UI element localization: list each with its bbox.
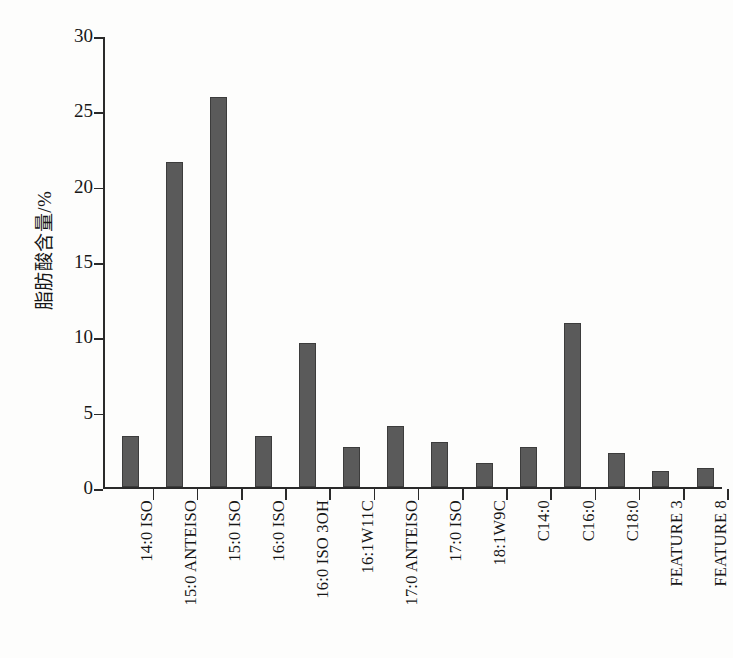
x-axis-tick-label: 17:0 ISO: [446, 500, 466, 562]
bar: [520, 447, 537, 488]
bar: [255, 436, 272, 487]
x-axis-tick-label: 16:1W11C: [358, 500, 378, 573]
bar: [431, 442, 448, 487]
bar: [210, 97, 227, 487]
y-axis-tick-label: 15: [57, 251, 93, 273]
x-axis-tick: [374, 489, 376, 500]
y-axis-tick: [94, 338, 103, 340]
x-axis-tick-label: C14:0: [534, 500, 554, 541]
x-axis-tick: [418, 489, 420, 500]
bar: [299, 343, 316, 488]
y-axis-tick-label: 0: [57, 477, 93, 499]
x-axis-tick-label: 16:0 ISO: [269, 500, 289, 562]
y-axis-tick-label: 30: [57, 25, 93, 47]
bar: [652, 471, 669, 488]
x-axis-tick: [639, 489, 641, 500]
y-axis-tick-label: 25: [57, 100, 93, 122]
x-axis-tick: [241, 489, 243, 500]
y-axis-tick: [94, 188, 103, 190]
bar: [697, 468, 714, 488]
plot-area: 051015202530: [103, 37, 722, 489]
x-axis-tick: [550, 489, 552, 500]
y-axis-tick: [94, 489, 103, 491]
x-axis-tick-label: C16:0: [579, 500, 599, 541]
x-axis-tick: [462, 489, 464, 500]
bar: [166, 162, 183, 487]
y-axis-tick-label: 20: [57, 176, 93, 198]
x-axis-tick: [329, 489, 331, 500]
x-axis-tick-label: 15:0 ISO: [225, 500, 245, 562]
y-axis-tick: [94, 414, 103, 416]
x-axis-tick-label: 17:0 ANTEISO: [402, 500, 422, 606]
bar: [608, 453, 625, 488]
bar: [343, 447, 360, 488]
x-axis-tick-label: FEATURE 3: [667, 500, 687, 587]
y-axis-tick: [94, 37, 103, 39]
y-axis-label-container: 脂肪酸含量/%: [26, 0, 60, 500]
x-axis-tick-label: C18:0: [623, 500, 643, 541]
x-axis-tick: [153, 489, 155, 500]
y-axis-tick: [94, 263, 103, 265]
fatty-acid-bar-chart: 脂肪酸含量/% 051015202530 14:0 ISO15:0 ANTEIS…: [0, 0, 733, 658]
x-axis-tick: [727, 489, 729, 500]
y-axis-tick-label: 5: [57, 402, 93, 424]
bar: [387, 426, 404, 488]
x-axis-tick-label: 14:0 ISO: [137, 500, 157, 562]
bar: [564, 323, 581, 487]
x-axis-tick: [595, 489, 597, 500]
x-axis-tick-label: 16:0 ISO 3OH: [313, 500, 333, 599]
x-axis-tick: [197, 489, 199, 500]
x-axis-tick-label: FEATURE 8: [711, 500, 731, 587]
x-axis-tick: [506, 489, 508, 500]
bar: [476, 463, 493, 487]
bar: [122, 436, 139, 487]
x-axis-tick-label: 15:0 ANTEISO: [181, 500, 201, 606]
y-axis-label: 脂肪酸含量/%: [30, 190, 57, 310]
x-axis-tick: [683, 489, 685, 500]
y-axis-tick-label: 10: [57, 326, 93, 348]
y-axis-line: [103, 37, 105, 489]
x-axis-tick-label: 18:1W9C: [490, 500, 510, 566]
x-axis-tick: [285, 489, 287, 500]
y-axis-tick: [94, 112, 103, 114]
